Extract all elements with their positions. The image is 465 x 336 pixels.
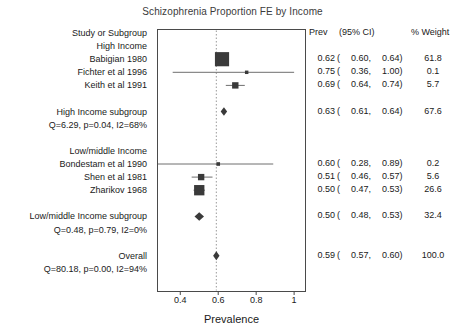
study-marker	[173, 71, 294, 74]
study-marker	[194, 185, 205, 195]
study-marker	[192, 174, 213, 180]
x-tick-label: 0.4	[165, 295, 195, 305]
forest-plot: Schizophrenia Proportion FE by Income St…	[0, 0, 465, 336]
point-estimate-square	[245, 71, 248, 74]
study-marker	[158, 162, 273, 166]
x-axis-label: Prevalence	[157, 313, 306, 325]
x-tick-label: 0.6	[203, 295, 233, 305]
overall-diamond	[213, 251, 219, 260]
study-marker	[215, 52, 229, 66]
study-marker	[226, 82, 245, 88]
point-estimate-square	[215, 52, 229, 66]
point-estimate-square	[198, 174, 204, 180]
subgroup-diamond	[221, 107, 227, 116]
plot-canvas	[0, 0, 465, 336]
subgroup-diamond	[195, 212, 204, 221]
x-tick-label: 0.8	[241, 295, 271, 305]
plot-frame	[158, 30, 306, 292]
point-estimate-square	[232, 82, 238, 88]
x-axis-ticks	[180, 292, 294, 296]
point-estimate-square	[216, 162, 220, 166]
point-estimate-square	[194, 185, 204, 195]
x-tick-label: 1	[279, 295, 309, 305]
